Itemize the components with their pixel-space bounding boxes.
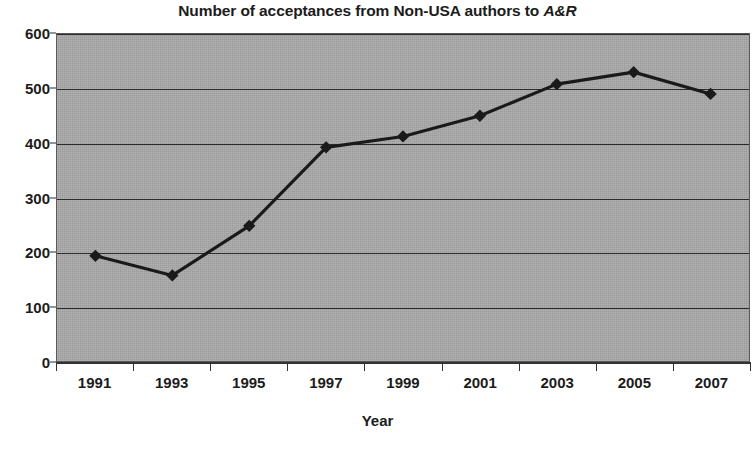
chart-title-emphasis: A&R: [543, 2, 576, 19]
x-tick-label: 2005: [618, 374, 651, 391]
data-point-marker: [627, 66, 639, 78]
x-tick-mark: [442, 364, 443, 371]
data-point-marker: [474, 110, 486, 122]
x-tick-label: 2007: [695, 374, 728, 391]
data-point-marker: [89, 250, 101, 262]
x-tick-mark: [364, 364, 365, 371]
x-tick-mark: [596, 364, 597, 371]
chart-title: Number of acceptances from Non-USA autho…: [0, 2, 755, 20]
chart-title-main: Number of acceptances from Non-USA autho…: [178, 2, 543, 19]
data-series-line: [57, 34, 749, 361]
chart-container: Number of acceptances from Non-USA autho…: [0, 0, 755, 455]
y-tick-label: 200: [0, 244, 50, 261]
x-tick-label: 1991: [78, 374, 111, 391]
data-point-marker: [397, 130, 409, 142]
x-tick-mark: [210, 364, 211, 371]
x-tick-label: 2003: [541, 374, 574, 391]
x-tick-mark: [519, 364, 520, 371]
x-axis-line: [56, 362, 751, 364]
y-tick-label: 600: [0, 25, 50, 42]
x-axis-title: Year: [0, 412, 755, 429]
x-tick-mark: [750, 364, 751, 371]
x-tick-label: 2001: [463, 374, 496, 391]
x-tick-mark: [673, 364, 674, 371]
y-tick-label: 400: [0, 134, 50, 151]
x-tick-mark: [287, 364, 288, 371]
data-point-marker: [551, 78, 563, 90]
series-line: [95, 72, 710, 275]
x-tick-label: 1993: [155, 374, 188, 391]
x-tick-label: 1997: [309, 374, 342, 391]
plot-area: [56, 33, 750, 362]
y-tick-label: 500: [0, 79, 50, 96]
y-tick-label: 300: [0, 189, 50, 206]
y-tick-label: 0: [0, 354, 50, 371]
y-axis: 0100200300400500600: [0, 33, 50, 362]
x-tick-mark: [56, 364, 57, 371]
x-tick-label: 1995: [232, 374, 265, 391]
x-tick-label: 1999: [386, 374, 419, 391]
y-tick-label: 100: [0, 299, 50, 316]
data-point-marker: [704, 88, 716, 100]
x-tick-mark: [133, 364, 134, 371]
